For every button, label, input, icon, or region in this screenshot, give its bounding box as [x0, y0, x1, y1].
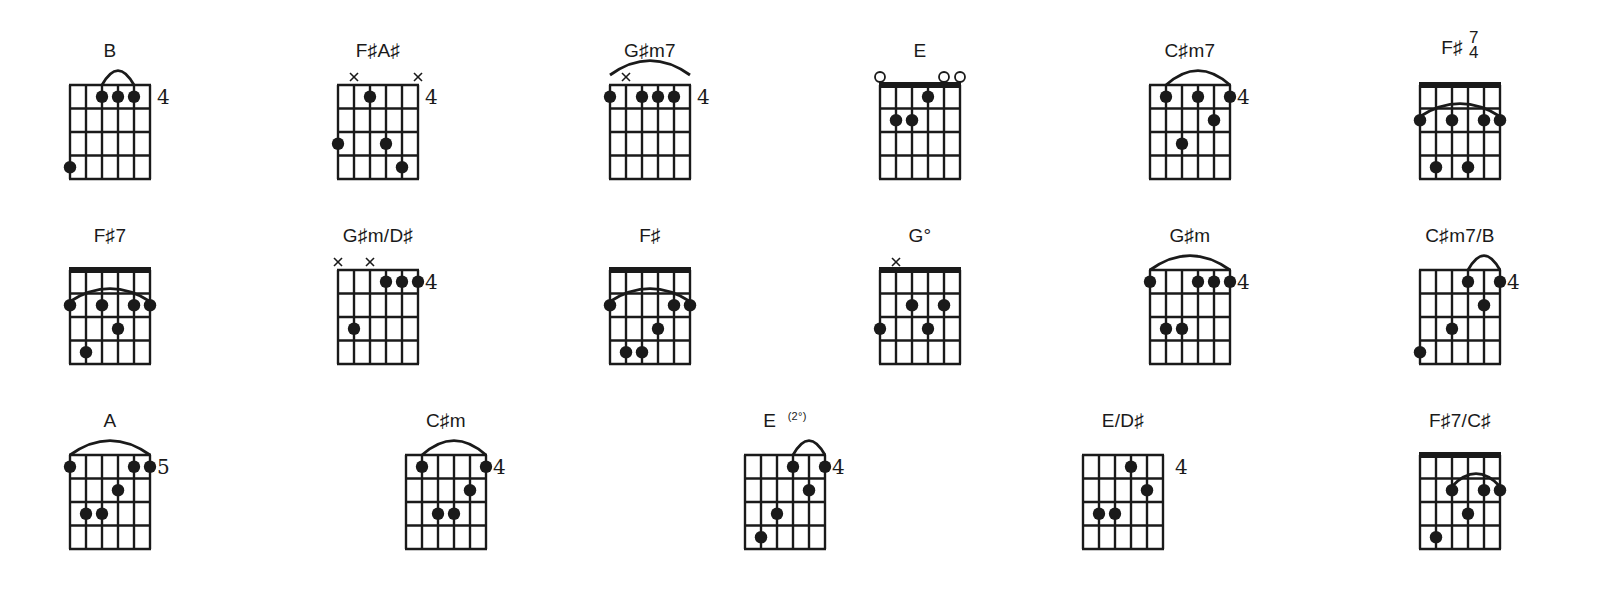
muted-string-icon — [414, 73, 422, 81]
fretboard-grid — [860, 225, 1000, 395]
chord-diagram: G° — [860, 225, 1000, 395]
fretboard-grid: 4 — [1130, 225, 1270, 395]
muted-string-icon — [622, 73, 630, 81]
finger-dot-icon — [1478, 299, 1490, 311]
finger-dot-icon — [348, 323, 360, 335]
fretboard-grid — [1400, 410, 1540, 580]
finger-dot-icon — [1414, 114, 1426, 126]
fretboard-grid — [590, 225, 730, 395]
finger-dot-icon — [80, 508, 92, 520]
muted-string-icon — [892, 258, 900, 266]
finger-dot-icon — [938, 299, 950, 311]
finger-dot-icon — [396, 276, 408, 288]
finger-dot-icon — [1494, 276, 1506, 288]
fret-position-label: 4 — [1237, 270, 1250, 294]
nut-bar — [609, 267, 691, 273]
finger-dot-icon — [1446, 323, 1458, 335]
chord-diagram: C♯m4 — [386, 410, 526, 580]
finger-dot-icon — [1446, 484, 1458, 496]
finger-dot-icon — [668, 91, 680, 103]
fret-position-label: 4 — [697, 85, 710, 109]
finger-dot-icon — [396, 161, 408, 173]
finger-dot-icon — [652, 91, 664, 103]
barre-arc-icon — [1150, 256, 1230, 270]
fret-position-label: 5 — [157, 455, 170, 479]
finger-dot-icon — [112, 323, 124, 335]
finger-dot-icon — [448, 508, 460, 520]
fret-position-label: 4 — [425, 85, 438, 109]
finger-dot-icon — [128, 461, 140, 473]
finger-dot-icon — [1224, 91, 1236, 103]
muted-string-icon — [334, 258, 342, 266]
fretboard-grid: 4 — [386, 410, 526, 580]
fretboard-grid: 4 — [318, 225, 458, 395]
open-string-icon — [955, 72, 965, 82]
chord-diagram: C♯m7/B4 — [1400, 225, 1540, 395]
finger-dot-icon — [1176, 138, 1188, 150]
finger-dot-icon — [96, 508, 108, 520]
finger-dot-icon — [1494, 114, 1506, 126]
finger-dot-icon — [1430, 531, 1442, 543]
fretboard-grid: 4 — [50, 40, 190, 210]
finger-dot-icon — [1109, 508, 1121, 520]
finger-dot-icon — [604, 299, 616, 311]
chord-diagram: C♯m74 — [1130, 40, 1270, 210]
finger-dot-icon — [1494, 484, 1506, 496]
finger-dot-icon — [1208, 114, 1220, 126]
fret-position-label: 4 — [157, 85, 170, 109]
finger-dot-icon — [112, 484, 124, 496]
muted-string-icon — [350, 73, 358, 81]
barre-arc-icon — [610, 61, 690, 75]
finger-dot-icon — [890, 114, 902, 126]
open-string-icon — [875, 72, 885, 82]
chord-diagram: A5 — [50, 410, 190, 580]
finger-dot-icon — [64, 161, 76, 173]
finger-dot-icon — [1160, 91, 1172, 103]
finger-dot-icon — [380, 276, 392, 288]
finger-dot-icon — [128, 299, 140, 311]
finger-dot-icon — [787, 461, 799, 473]
finger-dot-icon — [1414, 346, 1426, 358]
barre-arc-icon — [1468, 256, 1500, 270]
fretboard-grid: 4 — [1400, 225, 1540, 395]
finger-dot-icon — [906, 299, 918, 311]
finger-dot-icon — [755, 531, 767, 543]
finger-dot-icon — [64, 461, 76, 473]
finger-dot-icon — [771, 508, 783, 520]
finger-dot-icon — [480, 461, 492, 473]
fret-position-label: 4 — [1237, 85, 1250, 109]
finger-dot-icon — [1478, 484, 1490, 496]
finger-dot-icon — [1462, 276, 1474, 288]
finger-dot-icon — [112, 91, 124, 103]
barre-arc-icon — [1420, 104, 1500, 117]
fret-position-label: 4 — [832, 455, 845, 479]
finger-dot-icon — [364, 91, 376, 103]
fretboard-grid: 4 — [590, 40, 730, 210]
fret-position-label: 4 — [425, 270, 438, 294]
finger-dot-icon — [652, 323, 664, 335]
finger-dot-icon — [874, 323, 886, 335]
finger-dot-icon — [1144, 276, 1156, 288]
nut-bar — [879, 267, 961, 273]
nut-bar — [69, 267, 151, 273]
finger-dot-icon — [1478, 114, 1490, 126]
fret-position-label: 4 — [1507, 270, 1520, 294]
nut-bar — [879, 82, 961, 88]
fretboard-grid: 5 — [50, 410, 190, 580]
finger-dot-icon — [1430, 161, 1442, 173]
barre-arc-icon — [422, 441, 486, 455]
finger-dot-icon — [128, 91, 140, 103]
open-string-icon — [939, 72, 949, 82]
finger-dot-icon — [1192, 91, 1204, 103]
finger-dot-icon — [332, 138, 344, 150]
fretboard-grid: 4 — [725, 410, 865, 580]
finger-dot-icon — [144, 299, 156, 311]
finger-dot-icon — [636, 91, 648, 103]
chord-diagram: F♯7/C♯ — [1400, 410, 1540, 580]
barre-arc-icon — [1166, 71, 1230, 85]
finger-dot-icon — [1224, 276, 1236, 288]
finger-dot-icon — [604, 91, 616, 103]
fretboard-grid — [860, 40, 1000, 210]
fretboard-grid: 4 — [1063, 410, 1203, 580]
finger-dot-icon — [636, 346, 648, 358]
